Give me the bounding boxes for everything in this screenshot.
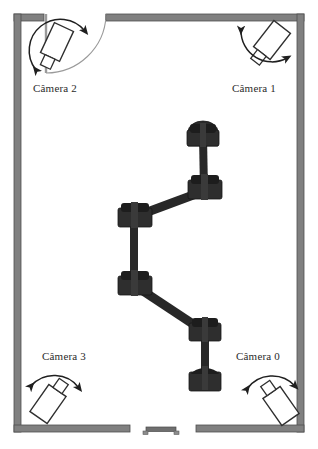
wall-bottom-left <box>14 425 130 432</box>
floor-plan-svg <box>0 0 318 449</box>
joint-3[interactable] <box>118 202 152 228</box>
joint-2[interactable] <box>188 174 222 200</box>
bench-leg-left <box>143 431 148 435</box>
camera-1-label: Câmera 1 <box>232 82 276 94</box>
bench-leg-right <box>174 431 179 435</box>
camera-1[interactable] <box>241 21 290 69</box>
robotic-arm-chain[interactable] <box>118 121 222 391</box>
wall-top-right <box>106 14 304 21</box>
camera-2-label: Câmera 2 <box>33 82 77 94</box>
bench-top <box>146 427 176 432</box>
joint-4[interactable] <box>118 270 152 296</box>
camera-0[interactable] <box>247 376 299 426</box>
camera-3-label: Câmera 3 <box>42 350 86 362</box>
bench <box>143 427 179 435</box>
floor-plan-diagram: Câmera 2 Câmera 1 Câmera 3 Câmera 0 <box>0 0 318 449</box>
wall-bottom-right <box>196 425 304 432</box>
camera-3[interactable] <box>30 375 79 423</box>
joint-5[interactable] <box>189 317 221 342</box>
joint-5-slot <box>202 317 208 342</box>
joint-6[interactable] <box>189 366 221 391</box>
joint-1[interactable] <box>187 121 219 147</box>
room-walls <box>14 14 304 432</box>
joint-2-slot <box>201 174 208 200</box>
camera-2[interactable] <box>29 19 85 71</box>
joint-3-slot <box>131 202 138 228</box>
wall-left <box>14 14 21 432</box>
wall-right <box>297 14 304 432</box>
joint-1-slot <box>200 123 206 147</box>
joint-6-slot <box>202 366 208 390</box>
joint-4-slot <box>131 270 138 296</box>
camera-0-label: Câmera 0 <box>236 350 280 362</box>
